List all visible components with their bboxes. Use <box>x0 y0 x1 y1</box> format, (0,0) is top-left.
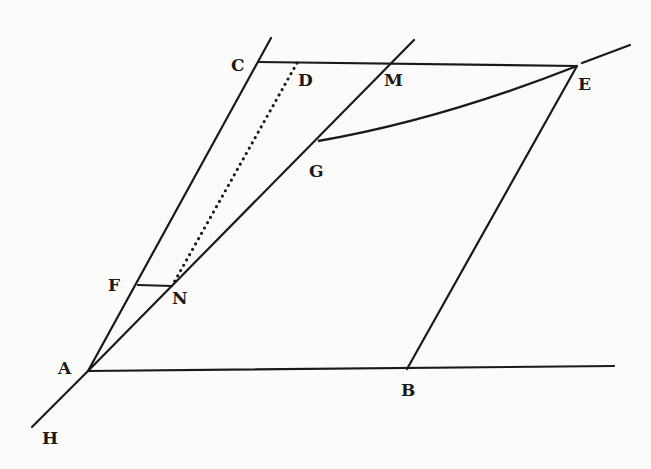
geometric-diagram: A B C D M E G F N H <box>0 0 651 469</box>
point-label-h: H <box>42 430 58 447</box>
line-A-M-extended <box>88 40 414 371</box>
point-label-g: G <box>309 163 324 180</box>
line-D-N-dotted <box>172 63 297 286</box>
point-label-d: D <box>298 72 313 89</box>
line-B-E <box>407 66 577 369</box>
diagram-curves <box>318 66 577 141</box>
line-H-A <box>32 371 88 427</box>
diagram-lines <box>32 38 630 427</box>
curve-G-E <box>318 66 577 141</box>
point-label-a: A <box>58 360 71 377</box>
point-label-m: M <box>384 72 403 89</box>
line-E-extended <box>582 45 630 63</box>
point-label-n: N <box>172 290 188 307</box>
diagram-canvas <box>0 0 651 469</box>
point-label-e: E <box>578 76 591 93</box>
line-C-E <box>258 62 577 66</box>
line-A-C <box>88 38 271 371</box>
point-label-c: C <box>231 57 245 74</box>
point-label-f: F <box>108 277 120 294</box>
point-label-b: B <box>401 382 415 399</box>
line-F-N <box>138 285 172 286</box>
line-A-B <box>88 366 614 371</box>
